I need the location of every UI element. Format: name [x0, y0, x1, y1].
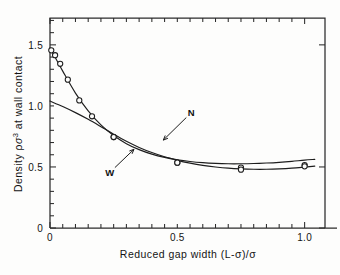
x-tick-label: 1.0 — [297, 232, 312, 243]
curve-label-n: N — [188, 107, 195, 118]
curve-annotations: NW — [105, 107, 195, 178]
data-point-n — [65, 77, 70, 82]
y-axis-tick-labels: 00.51.01.5 — [28, 40, 43, 234]
plot-box-border — [50, 18, 325, 228]
curve-n — [50, 48, 315, 164]
y-axis-label: Density ρσ3 at wall contact — [11, 56, 24, 192]
curve-label-w: W — [105, 167, 114, 178]
leader-line-w — [115, 149, 134, 167]
data-point-n — [77, 98, 82, 103]
y-tick-label: 0.5 — [28, 162, 43, 173]
x-axis-tick-labels: 00.51.0 — [47, 232, 312, 243]
leader-line-n — [163, 118, 186, 141]
figure-container: 00.51.0 00.51.01.5 NW Reduced gap width … — [0, 0, 340, 275]
x-axis-label: Reduced gap width (L-σ)/σ — [120, 248, 256, 260]
plot-frame — [50, 18, 337, 228]
data-point-w — [302, 164, 307, 169]
chart-figure: 00.51.0 00.51.01.5 NW Reduced gap width … — [0, 0, 340, 275]
density-vs-gap-width-chart: 00.51.0 00.51.01.5 NW Reduced gap width … — [0, 0, 340, 275]
data-curves — [50, 48, 315, 169]
ylabel-part-1: Density ρ — [12, 144, 24, 192]
data-point-w — [175, 160, 180, 165]
ylabel-part-2: at wall contact — [12, 56, 24, 133]
data-point-n — [52, 53, 57, 58]
curve-w — [50, 101, 315, 169]
data-point-n — [49, 48, 54, 53]
axis-ticks — [50, 18, 325, 228]
y-tick-label: 1.0 — [28, 101, 43, 112]
data-point-n — [89, 114, 94, 119]
data-point-w — [238, 167, 243, 172]
y-tick-label: 1.5 — [28, 40, 43, 51]
data-point-n — [58, 61, 63, 66]
x-tick-label: 0.5 — [170, 232, 185, 243]
y-tick-label: 0 — [37, 223, 43, 234]
data-point-w — [111, 134, 116, 139]
x-tick-label: 0 — [47, 232, 53, 243]
